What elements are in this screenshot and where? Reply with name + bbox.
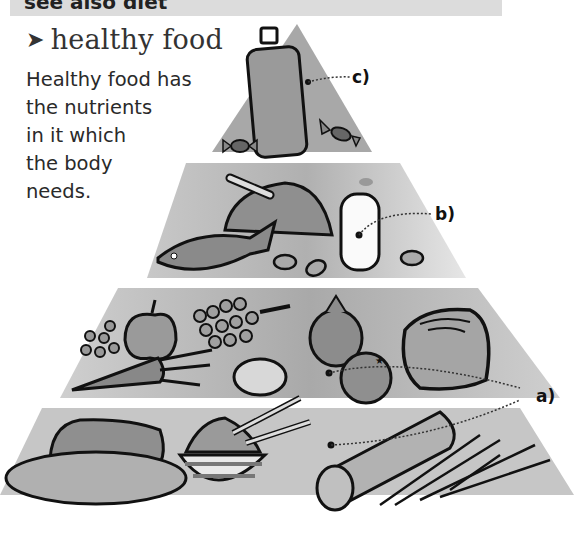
peanut-icon bbox=[274, 255, 296, 269]
peanut-icon bbox=[401, 251, 423, 265]
svg-text:★: ★ bbox=[375, 355, 384, 366]
orange-icon: ★ bbox=[341, 353, 391, 403]
tier-upper-middle bbox=[147, 163, 466, 279]
tier-top bbox=[212, 24, 372, 158]
callout-label-a: a) bbox=[536, 386, 555, 406]
tier-bottom bbox=[0, 398, 574, 510]
callout-label-b: b) bbox=[435, 204, 455, 224]
tier-lower-middle: ★ bbox=[60, 288, 560, 403]
baguette-icon bbox=[6, 452, 186, 504]
lemon-icon bbox=[234, 359, 286, 395]
food-pyramid-illustration: ★ bbox=[0, 0, 574, 533]
callout-label-c: c) bbox=[352, 67, 370, 87]
